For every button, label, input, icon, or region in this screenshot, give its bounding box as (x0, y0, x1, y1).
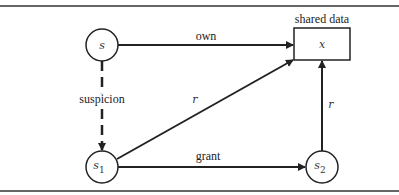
edge-label-r1: r (192, 93, 198, 106)
edge-label-grant: grant (196, 149, 221, 163)
shared-data-caption: shared data (295, 12, 350, 26)
node-s-label: s (99, 39, 105, 52)
edge-label-suspicion: suspicion (79, 92, 124, 106)
edge-r-s1-x (117, 60, 293, 159)
edge-label-r2: r (328, 98, 334, 111)
diagram-canvas: s s1 s2 x shared data own suspicion r gr… (0, 0, 399, 195)
node-x-label: x (319, 38, 326, 51)
edge-label-own: own (196, 29, 217, 43)
